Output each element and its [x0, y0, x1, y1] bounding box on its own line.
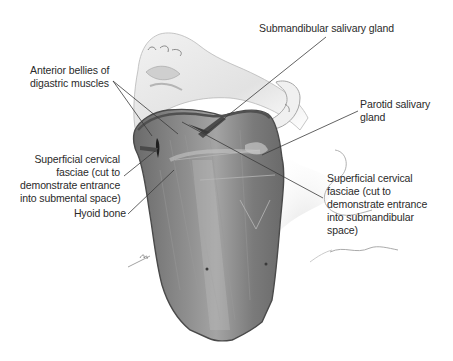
anatomy-illustration: Submandibular salivary gland Anterior be…: [0, 0, 453, 361]
label-fasciae-submental: Superficial cervical fasciae (cut to dem…: [20, 153, 120, 205]
dissection-flap: [134, 109, 284, 341]
label-submandibular-salivary-gland: Submandibular salivary gland: [259, 22, 394, 35]
artist-signature: [128, 255, 150, 267]
label-parotid-salivary-gland: Parotid salivary gland: [360, 98, 430, 124]
label-hyoid-bone: Hyoid bone: [40, 207, 126, 220]
label-anterior-bellies-digastric: Anterior bellies of digastric muscles: [30, 64, 109, 90]
label-fasciae-submandibular: Superficial cervical fasciae (cut to dem…: [327, 172, 427, 237]
